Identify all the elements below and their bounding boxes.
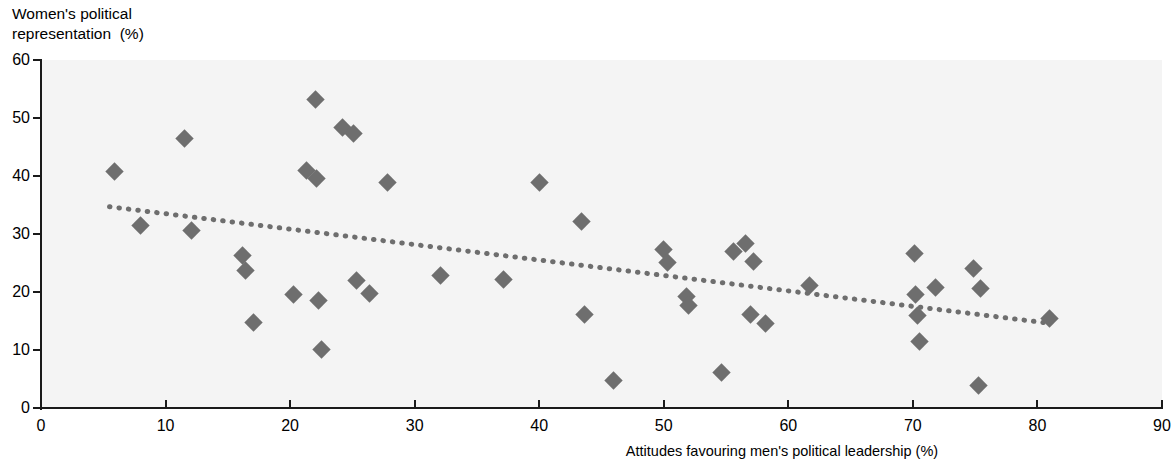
y-tick-label: 10	[0, 342, 30, 358]
x-tick-label: 80	[1017, 418, 1057, 434]
x-tick-label: 60	[768, 418, 808, 434]
x-tick-label: 70	[893, 418, 933, 434]
x-tick-label: 30	[395, 418, 435, 434]
y-tick-label: 0	[0, 400, 30, 416]
y-tick-mark	[33, 175, 41, 177]
x-tick-label: 40	[519, 418, 559, 434]
y-tick-mark	[33, 349, 41, 351]
y-axis-title: Women's political representation (%)	[12, 4, 144, 44]
y-tick-mark	[33, 291, 41, 293]
y-axis-title-line2: representation (%)	[12, 25, 144, 42]
y-tick-label: 50	[0, 110, 30, 126]
x-tick-mark	[912, 400, 914, 408]
y-tick-label: 20	[0, 284, 30, 300]
x-tick-mark	[787, 400, 789, 408]
x-axis-title-text: Attitudes favouring men's political lead…	[626, 443, 938, 459]
x-tick-mark	[1036, 400, 1038, 408]
y-tick-label: 30	[0, 226, 30, 242]
x-tick-label: 90	[1142, 418, 1174, 434]
y-tick-mark	[33, 59, 41, 61]
y-tick-label: 60	[0, 52, 30, 68]
x-tick-label: 50	[644, 418, 684, 434]
plot-area	[41, 60, 1162, 408]
y-tick-mark	[33, 117, 41, 119]
x-axis-line	[40, 407, 1163, 409]
x-tick-mark	[663, 400, 665, 408]
x-tick-label: 10	[146, 418, 186, 434]
x-tick-mark	[538, 400, 540, 408]
x-tick-mark	[165, 400, 167, 408]
scatter-chart: Women's political representation (%) 010…	[0, 0, 1174, 464]
x-tick-mark	[40, 400, 42, 408]
x-tick-mark	[414, 400, 416, 408]
y-tick-label: 40	[0, 168, 30, 184]
x-tick-label: 0	[21, 418, 61, 434]
y-axis-title-line1: Women's political	[12, 5, 132, 22]
x-tick-label: 20	[270, 418, 310, 434]
y-tick-mark	[33, 233, 41, 235]
x-tick-mark	[1161, 400, 1163, 408]
x-axis-title: Attitudes favouring men's political lead…	[0, 443, 1174, 459]
x-tick-mark	[289, 400, 291, 408]
